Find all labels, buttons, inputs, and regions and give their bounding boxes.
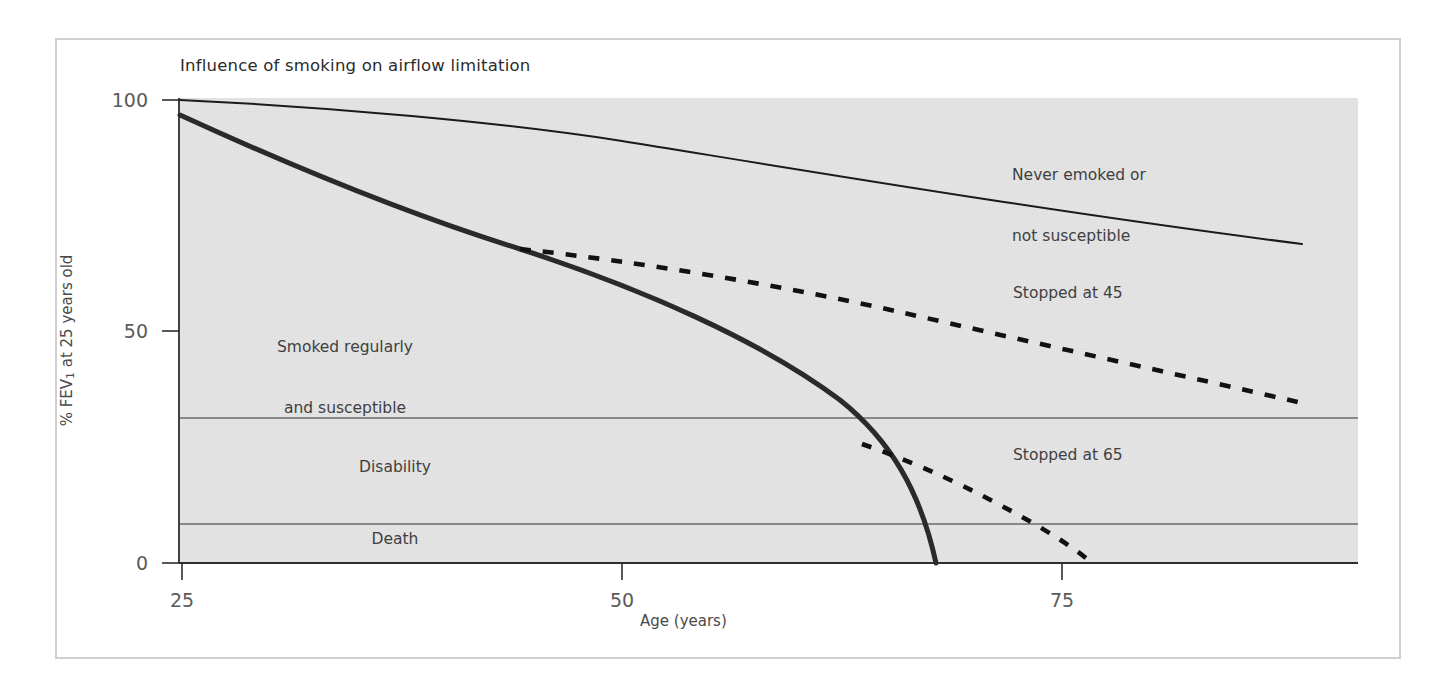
- x-tick-label-75: 75: [1032, 588, 1092, 613]
- smoked-regularly-annotation: Smoked regularly and susceptible: [230, 296, 460, 460]
- y-tick-label-0: 0: [88, 551, 148, 576]
- smoked-regularly-annotation-line-1: Smoked regularly: [230, 337, 460, 357]
- y-axis-label-suffix: at 25 years old: [58, 255, 76, 372]
- never-smoked-annotation: Never emoked or not susceptible: [1012, 124, 1146, 288]
- x-tick-label-50: 50: [592, 588, 652, 613]
- stopped-at-45-annotation: Stopped at 45: [1013, 283, 1123, 303]
- chart-svg: [0, 0, 1452, 692]
- y-axis-label-subscript: 1: [64, 372, 77, 379]
- chart-title: Influence of smoking on airflow limitati…: [180, 55, 530, 77]
- x-axis-label: Age (years): [640, 612, 727, 632]
- never-smoked-annotation-line-1: Never emoked or: [1012, 165, 1146, 185]
- chart-plot-area: Influence of smoking on airflow limitati…: [0, 0, 1452, 692]
- disability-region-label: Disability: [330, 457, 460, 477]
- y-axis-label: % FEV1 at 25 years old: [58, 210, 79, 470]
- stopped-at-65-annotation: Stopped at 65: [1013, 445, 1123, 465]
- y-tick-label-50: 50: [88, 319, 148, 344]
- x-tick-label-25: 25: [152, 588, 212, 613]
- figure-canvas: Influence of smoking on airflow limitati…: [0, 0, 1452, 692]
- y-axis-label-prefix: % FEV: [58, 379, 76, 426]
- never-smoked-annotation-line-2: not susceptible: [1012, 226, 1146, 246]
- smoked-regularly-annotation-line-2: and susceptible: [230, 398, 460, 418]
- death-region-label: Death: [330, 529, 460, 549]
- y-tick-label-100: 100: [88, 88, 148, 113]
